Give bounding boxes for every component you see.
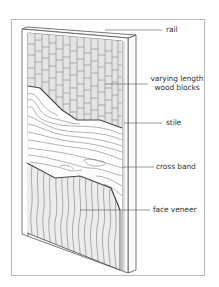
label-wood-blocks-line2: wood blocks [147,83,207,92]
label-face-veneer: face veneer [153,205,196,214]
label-rail: rail [166,25,177,34]
label-wood-blocks: varying length wood blocks [147,74,207,92]
label-stile: stile [166,118,181,127]
door-illustration [0,0,219,287]
label-wood-blocks-line1: varying length [147,74,207,83]
label-cross-band: cross band [156,162,196,171]
